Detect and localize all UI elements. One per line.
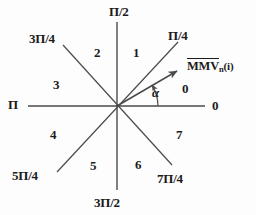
mmv-vector-label-main: MMV [187,58,219,73]
sector-label-5: 5 [90,159,96,172]
axis-label-7pi-over-4: 7Π/4 [157,172,183,185]
axis-label-zero-right: 0 [212,99,218,112]
mmv-vector-label-subscript: n [219,64,224,74]
mmv-vector-arrow [117,71,177,106]
axis-label-pi-over-2: Π/2 [109,5,129,18]
sector-label-2: 2 [94,46,100,59]
alpha-angle-label: α [152,86,159,99]
mmv-vector-label: MMVn(i) [187,58,233,73]
sector-label-0: 0 [182,82,188,95]
axis-label-3pi-over-2: 3Π/2 [94,196,120,209]
axis-label-5pi-over-4: 5Π/4 [12,169,38,182]
axis-label-pi: Π [8,98,18,111]
sector-label-4: 4 [50,128,56,141]
sector-label-6: 6 [135,158,141,171]
sector-label-1: 1 [133,46,139,59]
mmv-vector-label-paren: (i) [224,60,234,72]
axis-label-pi-over-4: Π/4 [168,29,188,42]
sector-label-7: 7 [176,128,182,141]
sector-label-3: 3 [53,78,59,91]
space-vector-diagram: Π/2 Π 0 3Π/2 Π/4 3Π/4 5Π/4 7Π/4 0 1 2 3 … [0,0,256,215]
axis-label-3pi-over-4: 3Π/4 [29,32,55,45]
